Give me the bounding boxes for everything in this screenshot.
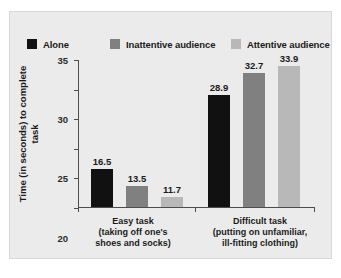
bar: 28.9 [208, 95, 230, 207]
category-title-easy-task: Easy task [72, 216, 194, 227]
legend-swatch-inattentive-audience [110, 39, 120, 49]
category-subtitle-easy-task-line-2: shoes and socks) [72, 238, 194, 249]
legend-swatch-alone [27, 39, 37, 49]
x-axis-line [78, 207, 315, 208]
legend-item-attentive-audience: Attentive audience [231, 36, 330, 52]
y-tick-mark: 20 [74, 149, 79, 150]
category-subtitle-difficult-task-line-2: ill-fitting clothing) [190, 238, 330, 249]
bar: 11.7 [161, 197, 183, 207]
bar-value-label: 16.5 [93, 156, 112, 167]
legend-label-inattentive-audience: Inattentive audience [126, 39, 215, 50]
bar: 33.9 [278, 66, 300, 207]
bar-value-label: 11.7 [163, 184, 181, 195]
x-tick-mark [314, 208, 315, 212]
category-label-difficult-task: Difficult task (putting on unfamiliar, i… [190, 216, 330, 249]
bar: 32.7 [243, 73, 265, 207]
chart-legend: Alone Inattentive audience Attentive aud… [27, 36, 327, 52]
plot-area: 353025201510 16.513.511.728.932.733.9 [78, 60, 315, 208]
y-tick-mark: 35 [74, 60, 79, 61]
y-axis-line [78, 60, 79, 208]
category-subtitle-easy-task-line-1: (taking off one's [72, 227, 194, 238]
category-subtitle-difficult-task-line-1: (putting on unfamiliar, [190, 227, 330, 238]
bar-value-label: 13.5 [128, 173, 147, 184]
legend-label-alone: Alone [43, 39, 69, 50]
category-title-difficult-task: Difficult task [190, 216, 330, 227]
bar-value-label: 28.9 [210, 82, 229, 93]
y-tick-mark: 30 [74, 90, 79, 91]
y-axis-title: Time (in seconds) to complete task [14, 60, 44, 208]
x-tick-mark [195, 208, 196, 212]
chart-screenshot: Alone Inattentive audience Attentive aud… [0, 0, 341, 278]
legend-item-alone: Alone [27, 36, 69, 52]
y-axis-title-line-2: task [29, 125, 40, 144]
legend-label-attentive-audience: Attentive audience [247, 39, 330, 50]
bar-value-label: 33.9 [280, 53, 299, 64]
y-tick-mark: 15 [74, 178, 79, 179]
y-tick-mark: 25 [74, 119, 79, 120]
y-tick-label: 30 [57, 114, 68, 125]
bar: 13.5 [126, 186, 148, 207]
y-tick-label: 35 [57, 55, 68, 66]
legend-item-inattentive-audience: Inattentive audience [110, 36, 215, 52]
y-tick-label: 25 [57, 173, 68, 184]
category-label-easy-task: Easy task (taking off one's shoes and so… [72, 216, 194, 249]
y-tick-label: 20 [57, 232, 68, 243]
bar: 16.5 [91, 169, 113, 207]
bar-value-label: 32.7 [245, 60, 264, 71]
x-tick-mark [78, 208, 79, 212]
legend-swatch-attentive-audience [231, 39, 241, 49]
y-axis-title-line-1: Time (in seconds) to complete [17, 66, 28, 203]
